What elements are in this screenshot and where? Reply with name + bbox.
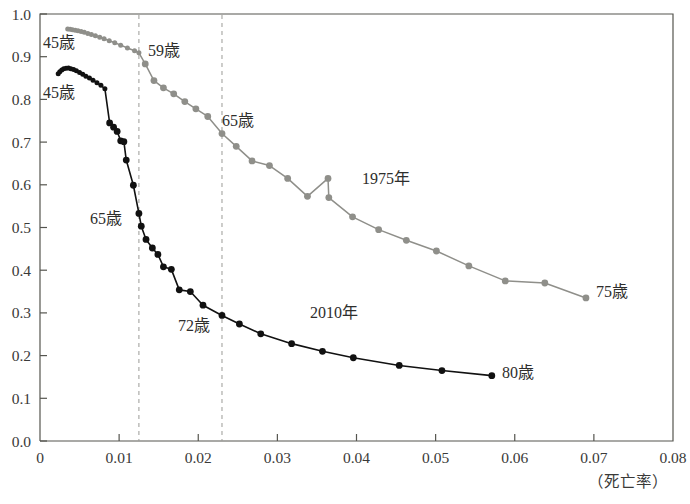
data-point — [142, 61, 149, 68]
y-tick-label: 0.2 — [12, 347, 31, 364]
data-point — [288, 340, 295, 347]
data-point — [118, 43, 123, 48]
data-point — [219, 130, 226, 137]
data-point — [107, 38, 112, 43]
y-tick-label: 0.5 — [12, 219, 32, 236]
data-point — [170, 90, 177, 97]
data-point — [187, 288, 194, 295]
data-point — [304, 193, 311, 200]
data-point — [93, 33, 98, 38]
data-point — [97, 35, 102, 40]
data-point — [284, 175, 291, 182]
data-point — [349, 213, 356, 220]
data-point — [114, 128, 121, 135]
data-point — [143, 236, 150, 243]
y-tick-label: 0.9 — [12, 48, 32, 65]
data-point — [102, 86, 107, 91]
data-point — [149, 245, 156, 252]
data-point — [465, 263, 472, 270]
data-point — [160, 84, 167, 91]
annotation-a-2010-72: 72歳 — [178, 317, 210, 334]
x-tick-label: 0.03 — [264, 449, 291, 466]
survival-curve-chart: 0.00.10.20.30.40.50.60.70.80.91.0 00.010… — [0, 0, 690, 504]
data-point — [98, 83, 103, 88]
x-tick-label: 0 — [36, 449, 44, 466]
data-point — [375, 226, 382, 233]
data-point — [249, 157, 256, 164]
data-point — [439, 367, 446, 374]
chart-figure: 0.00.10.20.30.40.50.60.70.80.91.0 00.010… — [0, 0, 690, 504]
x-tick-label: 0.02 — [185, 449, 212, 466]
data-point — [319, 348, 326, 355]
data-point — [502, 277, 509, 284]
y-tick-label: 0.3 — [12, 304, 32, 321]
data-point — [219, 312, 226, 319]
data-point — [541, 280, 548, 287]
data-point — [176, 286, 183, 293]
x-tick-label: 0.01 — [106, 449, 133, 466]
annotation-a-1975-59: 59歳 — [148, 42, 180, 59]
annotation-a-2010-65: 65歳 — [90, 210, 122, 227]
x-tick-label: 0.08 — [659, 449, 686, 466]
annotation-a-1975-75: 75歳 — [596, 283, 628, 300]
data-point — [325, 194, 332, 201]
data-point — [136, 50, 141, 55]
data-point — [403, 237, 410, 244]
annotation-a-1975-65: 65歳 — [222, 112, 254, 129]
data-point — [102, 36, 107, 41]
data-point — [350, 354, 357, 361]
y-tick-label: 1.0 — [12, 6, 32, 23]
annotation-a-2010-80: 80歳 — [502, 364, 534, 381]
data-point — [125, 45, 130, 50]
data-point — [112, 40, 117, 45]
x-tick-label: 0.07 — [580, 449, 607, 466]
data-point — [233, 143, 240, 150]
data-point — [181, 98, 188, 105]
data-point — [325, 175, 332, 182]
data-point — [151, 77, 158, 84]
x-tick-label: 0.06 — [501, 449, 528, 466]
data-point — [396, 362, 403, 369]
data-point — [204, 113, 211, 120]
data-point — [236, 321, 243, 328]
data-point — [154, 251, 161, 258]
data-point — [130, 182, 137, 189]
data-point — [136, 210, 143, 217]
y-tick-label: 0.7 — [12, 134, 32, 151]
y-tick-label: 0.4 — [12, 262, 32, 279]
chart-background — [0, 0, 690, 504]
y-tick-label: 0.1 — [12, 390, 31, 407]
data-point — [160, 263, 167, 270]
data-point — [583, 295, 590, 302]
data-point — [192, 105, 199, 112]
x-tick-label: 0.05 — [422, 449, 449, 466]
annotation-a-1975-45: 45歳 — [43, 34, 75, 51]
annotation-a-2010-45: 45歳 — [43, 84, 75, 101]
y-tick-label: 0.0 — [12, 433, 32, 450]
annotation-a-1975-label: 1975年 — [362, 170, 410, 187]
data-point — [123, 157, 130, 164]
data-point — [266, 162, 273, 169]
data-point — [138, 223, 145, 230]
data-point — [120, 138, 127, 145]
y-tick-label: 0.6 — [12, 176, 32, 193]
data-point — [488, 372, 495, 379]
data-point — [257, 330, 264, 337]
data-point — [132, 48, 137, 53]
x-axis-caption: （死亡率） — [588, 473, 668, 490]
data-point — [168, 266, 175, 273]
data-point — [200, 302, 207, 309]
data-point — [433, 248, 440, 255]
y-tick-label: 0.8 — [12, 91, 32, 108]
x-tick-label: 0.04 — [343, 449, 370, 466]
annotation-a-2010-label: 2010年 — [310, 304, 358, 321]
